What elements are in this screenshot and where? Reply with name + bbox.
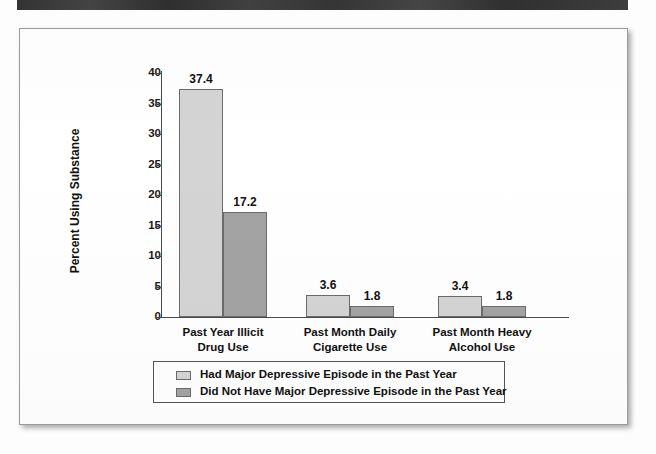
legend-item-label: Did Not Have Major Depressive Episode in… [200,386,507,398]
y-axis-tick-mark [155,195,161,196]
category-label-line: Drug Use [153,340,293,355]
category-label-line: Past Year Illicit [153,325,293,340]
y-axis-tick-mark [155,73,161,74]
bar-2-series-2 [350,306,394,317]
legend-swatch-icon [176,388,191,397]
category-label-line: Cigarette Use [280,340,420,355]
y-axis-title: Percent Using Substance [68,101,82,301]
category-label-line: Past Month Daily [280,325,420,340]
legend-item-label: Had Major Depressive Episode in the Past… [200,369,457,381]
legend-item: Had Major Depressive Episode in the Past… [176,367,504,383]
y-axis-tick-mark [155,104,161,105]
page-header-banner [17,0,628,10]
y-axis-tick-mark [155,165,161,166]
y-axis-tick-mark [155,317,161,318]
category-label-line: Past Month Heavy [412,325,552,340]
category-label-line: Alcohol Use [412,340,552,355]
y-axis-tick-mark [155,287,161,288]
category-label-3: Past Month HeavyAlcohol Use [412,325,552,354]
bar-value-label: 37.4 [169,73,233,85]
y-axis-tick-mark [155,226,161,227]
legend-item: Did Not Have Major Depressive Episode in… [176,384,504,400]
bar-value-label: 17.2 [213,196,277,208]
figure-card: Percent Using Substance 0510152025303540… [19,28,628,425]
bar-value-label: 1.8 [340,290,404,302]
legend-swatch-icon [176,371,191,380]
category-label-1: Past Year IllicitDrug Use [153,325,293,354]
y-axis-tick-mark [155,134,161,135]
x-axis-line [161,317,569,318]
bar-1-series-2 [223,212,267,317]
bar-value-label: 1.8 [472,290,536,302]
y-axis-tick-mark [155,256,161,257]
bar-3-series-2 [482,306,526,317]
y-axis-line [161,71,162,318]
chart-legend: Had Major Depressive Episode in the Past… [153,361,505,403]
bar-chart-plot: Percent Using Substance 0510152025303540… [20,29,629,426]
category-label-2: Past Month DailyCigarette Use [280,325,420,354]
